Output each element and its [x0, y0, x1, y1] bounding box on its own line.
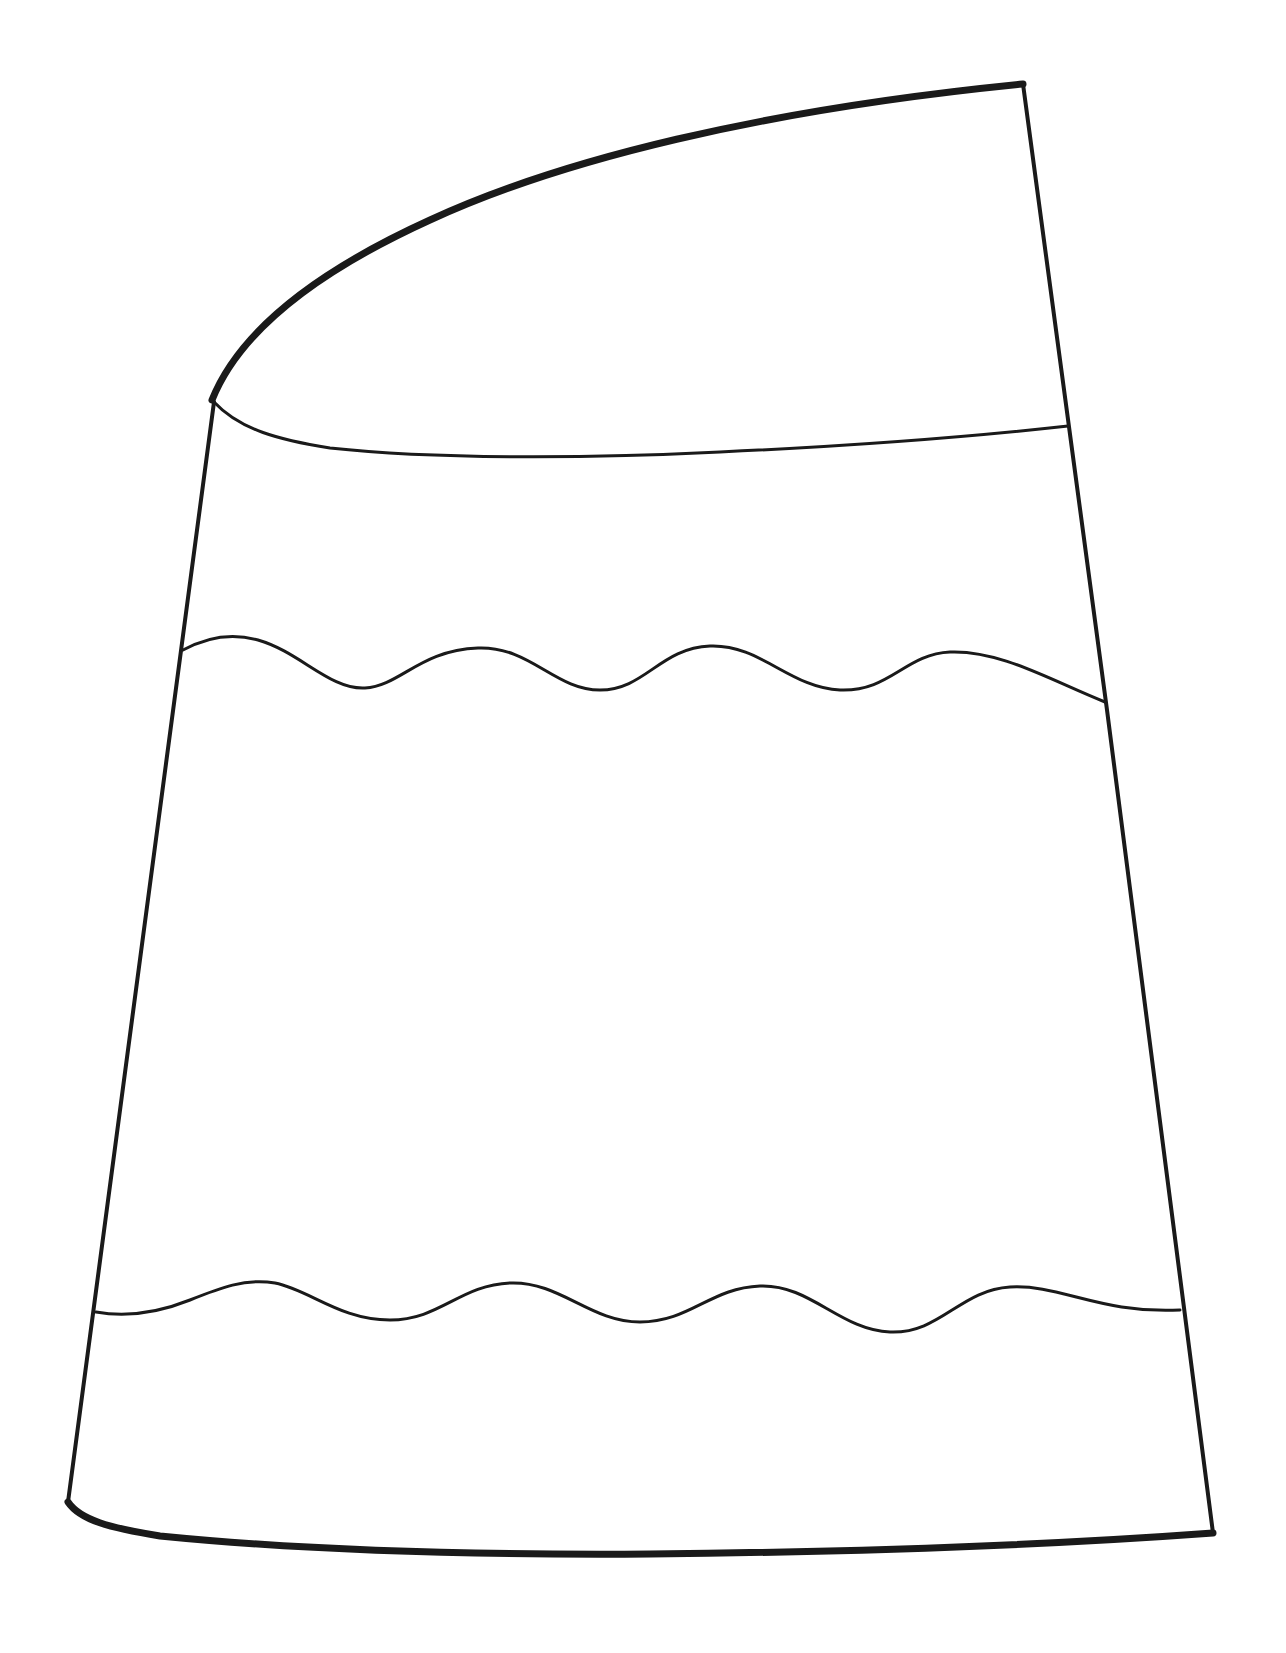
left-body-edge: [68, 402, 214, 1502]
bottom-curve: [68, 1502, 1213, 1554]
crayon-outline-svg: [0, 0, 1286, 1653]
label-top-band-line: [214, 402, 1068, 457]
crayon-drawing: [0, 0, 1286, 1653]
upper-wavy-band: [183, 636, 1105, 702]
lower-wavy-band: [96, 1282, 1180, 1332]
tip-top-curve: [212, 84, 1023, 400]
right-body-edge: [1023, 84, 1213, 1533]
